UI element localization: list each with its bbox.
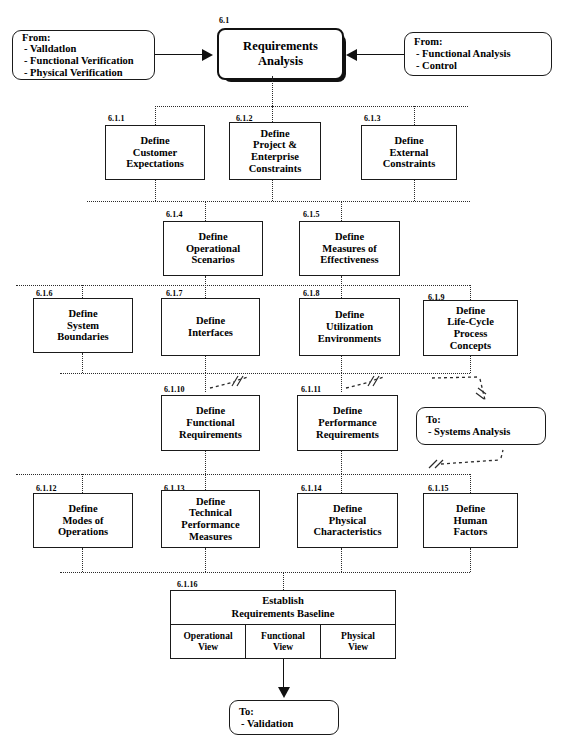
exit-6-1-7 xyxy=(205,356,206,373)
root-title-line1: Requirements xyxy=(243,39,318,54)
task-6-1-11-line-2: Requirements xyxy=(316,429,379,441)
baseline-title: Establish Requirements Baseline xyxy=(171,591,395,625)
task-6-1-2-line-0: Define xyxy=(260,128,289,140)
bus-row1 xyxy=(155,106,468,107)
to-systems-analysis-item-0: - Systems Analysis xyxy=(426,426,510,438)
task-6-1-13-line-0: Define xyxy=(196,496,225,508)
drop-6-1-7 xyxy=(205,285,206,298)
tag-6-1-15: 6.1.15 xyxy=(428,484,449,493)
task-6-1-15: Define Human Factors xyxy=(423,493,518,548)
drop-6-1-14 xyxy=(341,474,342,493)
task-6-1-8-line-2: Environments xyxy=(318,333,381,345)
task-6-1-3-line-1: External xyxy=(389,147,428,159)
task-6-1-1-line-0: Define xyxy=(140,135,169,147)
tag-6-1-5: 6.1.5 xyxy=(303,210,320,219)
tag-6-1-8: 6.1.8 xyxy=(303,289,320,298)
connector-from-left-to-root xyxy=(155,54,202,55)
task-6-1-10-line-1: Functional xyxy=(186,417,234,429)
requirements-analysis-box: Requirements Analysis xyxy=(217,28,340,76)
baseline-view-physical-line2: View xyxy=(348,642,368,653)
drop-6-1-11 xyxy=(341,373,342,392)
baseline-view-operational: Operational View xyxy=(171,625,246,658)
arrow-from-right-to-root xyxy=(346,49,357,61)
exit-6-1-8 xyxy=(341,356,342,373)
drop-6-1-3 xyxy=(414,106,415,125)
from-left-item-2: - Physical Verification xyxy=(22,67,123,79)
tag-6-1-3: 6.1.3 xyxy=(364,114,381,123)
arrow-baseline-to-validation xyxy=(278,687,290,698)
baseline-view-functional-line2: View xyxy=(273,642,293,653)
task-6-1-11-line-0: Define xyxy=(333,405,362,417)
from-left-box: From: - Valldatlon - Functional Verifica… xyxy=(12,30,155,80)
to-validation-box: To: - Validation xyxy=(229,700,339,735)
from-left-item-1: - Functional Verification xyxy=(22,55,134,67)
bus-row6 xyxy=(60,572,470,573)
task-6-1-10: Define Functional Requirements xyxy=(161,395,260,451)
from-right-item-0: - Functional Analysis xyxy=(414,48,511,60)
baseline-view-functional: Functional View xyxy=(246,625,321,658)
squiggle-branch-mid xyxy=(344,374,388,392)
task-6-1-13-line-3: Measures xyxy=(189,531,232,543)
task-6-1-6-line-1: System xyxy=(67,320,99,332)
task-6-1-14-line-0: Define xyxy=(333,503,362,515)
baseline-views: Operational View Functional View Physica… xyxy=(171,625,395,658)
task-6-1-2: Define Project & Enterprise Constraints xyxy=(229,122,321,180)
exit-6-1-3 xyxy=(414,180,415,201)
baseline-view-operational-line2: View xyxy=(198,642,218,653)
bus-row2 xyxy=(87,201,470,202)
task-6-1-13-line-2: Performance xyxy=(181,519,239,531)
exit-6-1-2 xyxy=(272,180,273,201)
task-6-1-5-line-0: Define xyxy=(335,231,364,243)
drop-6-1-4 xyxy=(205,201,206,221)
connector-from-right-to-root xyxy=(357,54,404,55)
task-6-1-11: Define Performance Requirements xyxy=(297,395,398,451)
requirements-analysis-face: Requirements Analysis xyxy=(217,28,344,80)
tag-6-1-14: 6.1.14 xyxy=(301,484,322,493)
squiggle-branch-left xyxy=(208,374,252,392)
to-validation-header: To: xyxy=(239,706,254,718)
tag-6-1-4: 6.1.4 xyxy=(166,210,183,219)
task-6-1-6-line-2: Boundaries xyxy=(57,331,108,343)
task-6-1-9-line-3: Concepts xyxy=(450,340,491,352)
exit-6-1-11 xyxy=(341,451,342,474)
task-6-1-12-line-1: Modes of xyxy=(62,515,103,527)
bus-row3 xyxy=(16,285,470,286)
task-6-1-10-line-0: Define xyxy=(196,405,225,417)
task-6-1-9-line-2: Process xyxy=(454,328,488,340)
task-6-1-1-line-2: Expectations xyxy=(126,158,184,170)
baseline-view-operational-line1: Operational xyxy=(183,631,232,642)
tag-6-1-11: 6.1.11 xyxy=(301,385,321,394)
tag-6-1-12: 6.1.12 xyxy=(36,484,57,493)
exit-6-1-13 xyxy=(205,548,206,572)
task-6-1-3-line-0: Define xyxy=(394,135,423,147)
task-6-1-9-line-0: Define xyxy=(456,305,485,317)
from-right-item-1: - Control xyxy=(414,60,457,72)
bus-row5 xyxy=(16,474,470,475)
task-6-1-3: Define External Constraints xyxy=(361,125,457,180)
bus-row4 xyxy=(60,373,470,374)
task-6-1-13: Define Technical Performance Measures xyxy=(161,490,260,548)
task-6-1-11-line-1: Performance xyxy=(318,417,376,429)
tag-6-1-7: 6.1.7 xyxy=(166,289,183,298)
drop-6-1-1 xyxy=(155,106,156,125)
from-left-item-0: - Valldatlon xyxy=(22,43,76,55)
connector-baseline-to-validation xyxy=(283,659,284,690)
task-6-1-2-line-3: Constraints xyxy=(249,163,302,175)
drop-6-1-5 xyxy=(341,201,342,221)
squiggle-branch-right-bottom xyxy=(425,448,505,472)
arrow-from-left-to-root xyxy=(202,49,213,61)
exit-6-1-10 xyxy=(205,451,206,474)
establish-requirements-baseline-box: Establish Requirements Baseline Operatio… xyxy=(170,590,396,659)
task-6-1-5: Define Measures of Effectiveness xyxy=(299,221,400,276)
task-6-1-12-line-2: Operations xyxy=(58,526,108,538)
task-6-1-4-line-1: Operational xyxy=(186,243,240,255)
exit-6-1-6 xyxy=(82,353,83,373)
drop-6-1-2 xyxy=(272,106,273,122)
drop-6-1-15 xyxy=(470,474,471,493)
task-6-1-8-line-1: Utilization xyxy=(326,321,373,333)
baseline-title-line1: Establish xyxy=(262,595,303,607)
baseline-view-functional-line1: Functional xyxy=(261,631,305,642)
drop-6-1-10 xyxy=(205,373,206,392)
tag-6-1-6: 6.1.6 xyxy=(36,289,53,298)
baseline-title-line2: Requirements Baseline xyxy=(232,608,335,620)
